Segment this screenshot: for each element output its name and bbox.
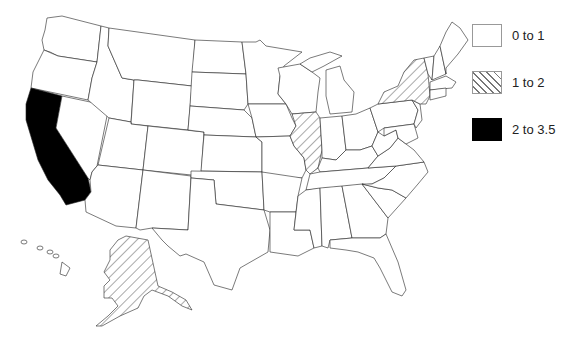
state-north-dakota: [192, 40, 246, 74]
legend-item-2-to-3-5: 2 to 3.5: [472, 118, 561, 143]
legend-label: 0 to 1: [512, 28, 545, 43]
state-colorado: [143, 126, 204, 176]
legend-item-1-to-2: 1 to 2: [472, 71, 561, 96]
legend-swatch-hatched: [472, 71, 502, 94]
state-wyoming: [131, 80, 192, 130]
state-connecticut: [430, 88, 446, 100]
legend-swatch-white: [472, 24, 502, 47]
state-florida: [330, 234, 406, 296]
us-choropleth-map: [0, 0, 561, 350]
state-maine: [440, 22, 468, 74]
legend-label: 2 to 3.5: [512, 122, 555, 137]
state-arizona: [85, 165, 143, 228]
legend-label: 1 to 2: [512, 75, 545, 90]
state-arkansas: [262, 172, 302, 212]
state-hawaii: [21, 240, 70, 276]
state-utah: [98, 118, 148, 170]
legend-item-0-to-1: 0 to 1: [472, 24, 561, 49]
state-new-york: [378, 58, 430, 104]
state-south-dakota: [190, 72, 248, 110]
state-new-mexico: [136, 170, 191, 230]
state-indiana: [320, 116, 346, 160]
legend-swatch-black: [472, 118, 502, 141]
state-kansas: [201, 135, 262, 172]
